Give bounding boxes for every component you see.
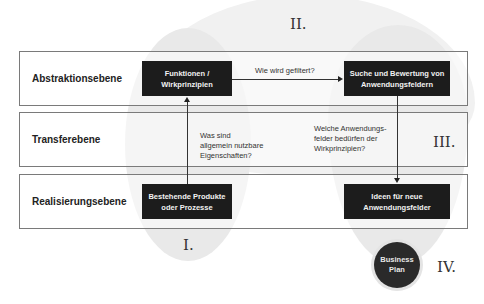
question-properties: Was sind allgemein nutzbare Eigenschafte…	[200, 131, 263, 161]
arrow-down-icon	[394, 178, 400, 183]
box-text: Anwendungsfelder	[363, 202, 431, 213]
question-line: Eigenschaften?	[200, 151, 263, 161]
level-label: Abstraktionsebene	[32, 52, 122, 105]
box-text: Bestehende Produkte	[148, 191, 225, 202]
question-filter: Wie wird gefiltert?	[255, 66, 315, 76]
connector-right	[232, 79, 338, 80]
phase-label-i: I.	[183, 236, 194, 254]
connector-up	[187, 101, 188, 184]
box-search: Suche und Bewertung von Anwendungsfelder…	[344, 61, 450, 96]
box-text: oder Prozesse	[161, 202, 212, 213]
box-text: Ideen für neue	[371, 191, 422, 202]
box-text: Wirkprinzipien	[161, 79, 213, 90]
question-line: Welche Anwendungs-	[314, 124, 386, 134]
level-label: Transferebene	[32, 113, 100, 166]
circle-text: Plan	[389, 265, 405, 275]
box-text: Funktionen /	[165, 68, 210, 79]
arrow-up-icon	[184, 97, 190, 102]
circle-text: Business	[380, 255, 413, 265]
box-ideas: Ideen für neue Anwendungsfelder	[344, 184, 450, 219]
phase-label-ii: II.	[290, 15, 307, 33]
level-label: Realisierungsebene	[32, 175, 126, 228]
question-line: Wirkprinzipien?	[314, 144, 386, 154]
box-text: Suche und Bewertung von	[350, 68, 445, 79]
business-plan-circle: Business Plan	[374, 242, 420, 288]
question-line: felder bedürfen der	[314, 134, 386, 144]
phase-label-iv: IV.	[437, 258, 456, 276]
connector-down	[397, 96, 398, 178]
phase-label-iii: III.	[433, 133, 456, 151]
question-line: Was sind	[200, 131, 263, 141]
arrow-right-icon	[338, 76, 343, 82]
box-functions: Funktionen / Wirkprinzipien	[142, 61, 232, 96]
box-existing: Bestehende Produkte oder Prozesse	[142, 184, 232, 219]
question-fields: Welche Anwendungs- felder bedürfen der W…	[314, 124, 386, 154]
question-line: allgemein nutzbare	[200, 141, 263, 151]
box-text: Anwendungsfeldern	[361, 79, 433, 90]
